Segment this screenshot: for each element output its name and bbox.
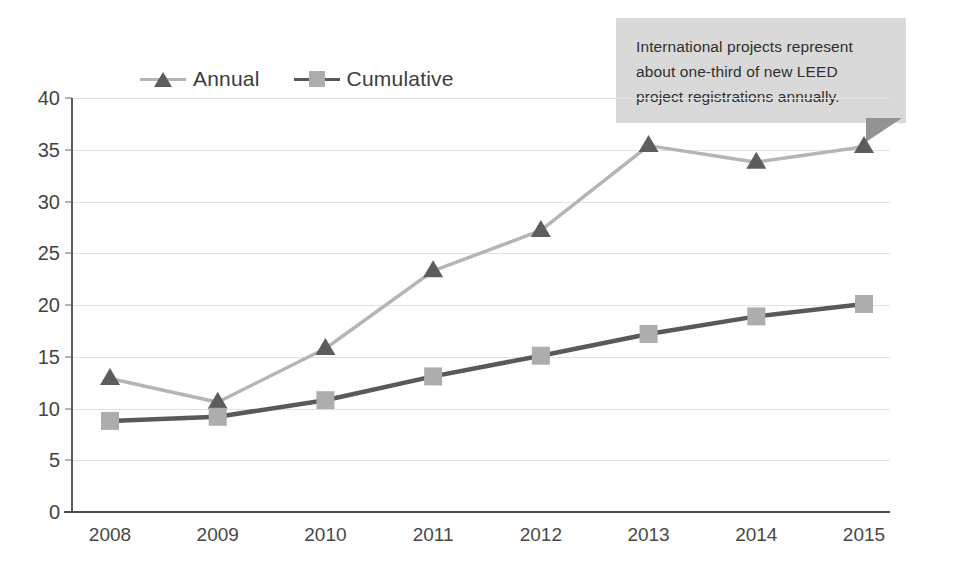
- x-tick-label: 2015: [843, 524, 885, 546]
- legend-item-cumulative[interactable]: Cumulative: [294, 67, 454, 91]
- data-point-cumulative-2014[interactable]: [747, 307, 765, 325]
- x-tick-label: 2010: [304, 524, 346, 546]
- y-tick-label: 35: [38, 138, 60, 161]
- y-tick-label: 20: [38, 294, 60, 317]
- data-point-cumulative-2011[interactable]: [424, 367, 442, 385]
- x-tick-label: 2014: [735, 524, 777, 546]
- triangle-marker-icon: [154, 72, 172, 87]
- data-point-annual-2013[interactable]: [639, 135, 659, 152]
- x-tick-label: 2011: [413, 524, 454, 546]
- data-point-cumulative-2009[interactable]: [209, 408, 227, 426]
- chart-container: Annual Cumulative International projects…: [0, 0, 953, 572]
- series-layer: [72, 98, 890, 512]
- chart-legend: Annual Cumulative: [140, 64, 454, 94]
- x-tick-label: 2012: [520, 524, 562, 546]
- y-tick-label: 40: [38, 87, 60, 110]
- data-point-cumulative-2012[interactable]: [532, 347, 550, 365]
- data-point-cumulative-2008[interactable]: [101, 412, 119, 430]
- data-point-annual-2015[interactable]: [854, 136, 874, 153]
- legend-marker-cumulative: [294, 69, 340, 89]
- x-tick-label: 2009: [197, 524, 239, 546]
- y-tick-label: 30: [38, 190, 60, 213]
- data-point-cumulative-2013[interactable]: [640, 325, 658, 343]
- y-tick-label: 25: [38, 242, 60, 265]
- square-marker-icon: [309, 71, 325, 87]
- data-point-annual-2010[interactable]: [315, 338, 335, 355]
- legend-label-annual: Annual: [193, 67, 260, 91]
- x-tick-label: 2013: [627, 524, 669, 546]
- legend-marker-annual: [140, 69, 186, 89]
- data-point-annual-2012[interactable]: [531, 220, 551, 237]
- y-tick-label: 0: [49, 501, 60, 524]
- plot-area: 0510152025303540 20082009201020112012201…: [72, 98, 890, 512]
- x-tick-label: 2008: [89, 524, 131, 546]
- y-tick-label: 10: [38, 397, 60, 420]
- legend-item-annual[interactable]: Annual: [140, 67, 260, 91]
- y-tick-label: 5: [49, 449, 60, 472]
- data-point-cumulative-2010[interactable]: [316, 391, 334, 409]
- legend-label-cumulative: Cumulative: [347, 67, 454, 91]
- data-point-cumulative-2015[interactable]: [855, 295, 873, 313]
- data-point-annual-2008[interactable]: [100, 368, 120, 385]
- y-tick-label: 15: [38, 345, 60, 368]
